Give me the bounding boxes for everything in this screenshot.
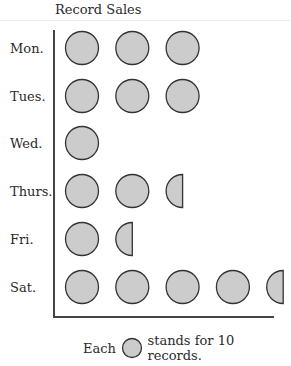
legend: Each stands for 10 records. — [83, 333, 290, 363]
legend-prefix: Each — [83, 341, 116, 356]
record-disc-icon — [66, 80, 99, 113]
half-record-disc-icon — [116, 223, 133, 256]
record-disc-icon — [66, 32, 99, 65]
record-disc-icon — [66, 271, 99, 304]
record-disc-icon — [116, 175, 149, 208]
pictograph-symbols — [0, 0, 290, 366]
record-disc-icon — [116, 80, 149, 113]
half-record-disc-icon — [166, 175, 182, 208]
x-axis — [53, 316, 274, 318]
y-axis — [53, 30, 55, 317]
record-disc-icon — [121, 337, 143, 359]
legend-suffix: stands for 10 records. — [148, 333, 291, 363]
record-disc-icon — [216, 271, 249, 304]
record-disc-icon — [166, 80, 199, 113]
record-disc-icon — [116, 32, 149, 65]
record-disc-icon — [166, 32, 199, 65]
record-disc-icon — [166, 271, 199, 304]
record-disc-icon — [66, 127, 99, 160]
record-disc-icon — [66, 175, 99, 208]
record-disc-icon — [116, 271, 149, 304]
half-record-disc-icon — [267, 271, 284, 304]
record-disc-icon — [66, 223, 99, 256]
